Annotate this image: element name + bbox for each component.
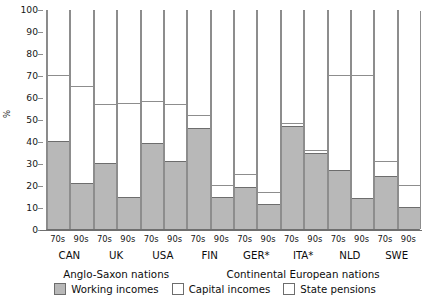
y-tick-label: 90 (12, 27, 38, 36)
segment-state-pensions (212, 9, 233, 185)
segment-capital-incomes (118, 103, 139, 198)
segment-capital-incomes (235, 174, 256, 187)
segment-state-pensions (235, 9, 256, 174)
bar-fin-90s (211, 11, 234, 229)
y-tick-label: 80 (12, 49, 38, 58)
bar-nld-70s (328, 11, 351, 229)
y-tick-mark (38, 32, 43, 33)
segment-capital-incomes (165, 104, 186, 161)
segment-working-incomes (188, 128, 209, 229)
x-axis-line (40, 230, 422, 231)
y-tick-mark (38, 164, 43, 165)
y-tick-label: 100 (12, 5, 38, 14)
legend-swatch-icon (54, 283, 66, 295)
x-country-label-ger: GER* (233, 250, 280, 261)
segment-capital-incomes (48, 75, 69, 141)
y-tick-label: 20 (12, 181, 38, 190)
plot-area (46, 10, 420, 230)
segment-state-pensions (95, 9, 116, 104)
segment-capital-incomes (188, 115, 209, 128)
segment-working-incomes (235, 187, 256, 229)
segment-capital-incomes (258, 192, 279, 204)
x-period-label: 90s (256, 234, 279, 244)
stacked-bar-chart: % 0102030405060708090100 70s90s70s90s70s… (0, 0, 430, 301)
y-tick-mark (38, 76, 43, 77)
segment-working-incomes (48, 141, 69, 229)
x-period-label: 90s (303, 234, 326, 244)
legend-swatch-icon (172, 283, 184, 295)
y-tick-mark (38, 186, 43, 187)
segment-capital-incomes (71, 86, 92, 183)
segment-capital-incomes (212, 185, 233, 197)
y-tick-label: 50 (12, 115, 38, 124)
y-axis-tick-labels: 0102030405060708090100 (8, 0, 38, 301)
bar-swe-90s (398, 11, 421, 229)
y-tick-mark (38, 142, 43, 143)
x-country-label-uk: UK (93, 250, 140, 261)
y-tick-label: 30 (12, 159, 38, 168)
segment-working-incomes (305, 153, 326, 229)
bar-ita-90s (304, 11, 327, 229)
x-country-label-usa: USA (140, 250, 187, 261)
segment-capital-incomes (352, 75, 373, 198)
x-period-label: 70s (140, 234, 163, 244)
y-tick-mark (38, 120, 43, 121)
x-country-label-fin: FIN (186, 250, 233, 261)
segment-working-incomes (142, 143, 163, 229)
segment-state-pensions (142, 9, 163, 101)
segment-state-pensions (165, 9, 186, 104)
y-tick-label: 60 (12, 93, 38, 102)
segment-capital-incomes (95, 104, 116, 163)
y-tick-label: 40 (12, 137, 38, 146)
bar-fin-70s (187, 11, 210, 229)
bar-uk-70s (94, 11, 117, 229)
y-tick-mark (38, 208, 43, 209)
legend-label: Capital incomes (189, 284, 271, 295)
segment-capital-incomes (375, 161, 396, 176)
bar-usa-90s (164, 11, 187, 229)
x-country-label-ita: ITA* (280, 250, 327, 261)
band-label: Continental European nations (186, 268, 420, 280)
bar-usa-70s (141, 11, 164, 229)
x-period-label: 70s (280, 234, 303, 244)
y-tick-label: 10 (12, 203, 38, 212)
y-tick-label: 0 (12, 225, 38, 234)
segment-state-pensions (282, 9, 303, 123)
segment-state-pensions (329, 9, 350, 75)
legend-item-capital: Capital incomes (172, 283, 271, 295)
segment-working-incomes (71, 183, 92, 229)
segment-working-incomes (95, 163, 116, 229)
x-period-label: 90s (210, 234, 233, 244)
legend-item-state: State pensions (283, 283, 376, 295)
segment-capital-incomes (399, 185, 420, 207)
legend-label: Working incomes (71, 284, 158, 295)
bar-ita-70s (281, 11, 304, 229)
bar-can-70s (47, 11, 70, 229)
chart-legend: Working incomesCapital incomesState pens… (0, 283, 430, 295)
bar-ger-70s (234, 11, 257, 229)
bar-swe-70s (374, 11, 397, 229)
x-period-label: 70s (93, 234, 116, 244)
segment-state-pensions (71, 9, 92, 86)
x-country-label-swe: SWE (373, 250, 420, 261)
segment-state-pensions (118, 9, 139, 103)
x-period-label: 70s (46, 234, 69, 244)
legend-swatch-icon (283, 283, 295, 295)
x-period-label: 90s (69, 234, 92, 244)
segment-state-pensions (352, 9, 373, 75)
segment-state-pensions (258, 9, 279, 192)
x-country-label-can: CAN (46, 250, 93, 261)
y-tick-label: 70 (12, 71, 38, 80)
segment-working-incomes (165, 161, 186, 229)
x-period-label: 90s (350, 234, 373, 244)
segment-working-incomes (212, 197, 233, 229)
segment-capital-incomes (329, 75, 350, 170)
x-period-label: 70s (186, 234, 209, 244)
segment-working-incomes (329, 170, 350, 229)
y-tick-mark (38, 98, 43, 99)
segment-capital-incomes (142, 101, 163, 143)
segment-state-pensions (48, 9, 69, 75)
legend-label: State pensions (300, 284, 376, 295)
x-period-label: 70s (373, 234, 396, 244)
bar-ger-90s (257, 11, 280, 229)
